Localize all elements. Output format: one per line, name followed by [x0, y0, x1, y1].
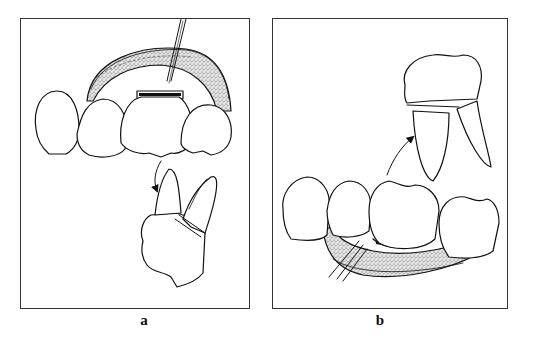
extracted-molar-root-attached: [457, 101, 491, 167]
panel-label-a: a: [134, 312, 154, 329]
removal-arrow: [387, 137, 413, 175]
extracted-tooth-root-1: [155, 169, 181, 215]
tooth-1: [35, 91, 79, 154]
dental-illustration-a: [21, 19, 251, 310]
figure-panel-b: [272, 18, 508, 309]
tooth-3-molar: [369, 181, 439, 249]
tooth-2: [77, 99, 127, 157]
dental-illustration-b: [273, 19, 509, 310]
extracted-molar-root-separated: [413, 111, 449, 181]
extracted-tooth-root-2: [183, 177, 217, 233]
extracted-molar-crown: [404, 55, 481, 103]
tooth-4-molar: [439, 197, 499, 258]
figure-panel-a: [20, 18, 250, 309]
tooth-2: [327, 181, 371, 237]
tooth-1: [283, 177, 330, 240]
panel-label-b: b: [370, 312, 390, 329]
